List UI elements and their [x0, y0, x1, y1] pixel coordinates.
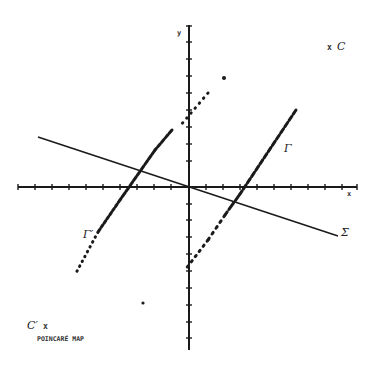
point-c-prime-label: C′	[27, 319, 38, 332]
point-c-prime-marker: x	[43, 322, 48, 331]
phase-diagram: x C Γ Σ Γ′ C′ x POINCARÉ MAP x y	[0, 0, 378, 372]
point-c-marker: x	[327, 43, 332, 52]
gamma-label: Γ	[283, 142, 292, 155]
stray-point-lower	[141, 301, 144, 304]
x-axis-label: x	[347, 190, 352, 198]
point-c-label: C	[337, 40, 346, 53]
stray-point-upper	[222, 76, 226, 80]
diagram-caption: POINCARÉ MAP	[37, 334, 84, 343]
sigma-label: Σ	[340, 226, 349, 239]
gamma-prime-label: Γ′	[82, 228, 94, 241]
y-axis-label: y	[177, 29, 182, 37]
